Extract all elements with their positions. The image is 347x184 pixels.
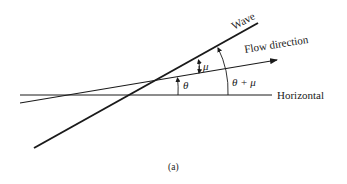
flow-direction-label: Flow direction (243, 33, 309, 55)
caption-label: (a) (168, 162, 179, 173)
theta-label: θ (183, 79, 189, 91)
wave-angle-diagram: Wave Flow direction Horizontal θ μ θ + μ… (0, 0, 347, 184)
theta-plus-mu-label: θ + μ (232, 76, 256, 88)
mu-label: μ (202, 60, 209, 72)
wave-line (34, 23, 258, 148)
horizontal-label: Horizontal (277, 89, 324, 101)
theta-arc (178, 78, 179, 95)
theta-plus-mu-arc (218, 48, 228, 95)
wave-label: Wave (229, 9, 257, 31)
